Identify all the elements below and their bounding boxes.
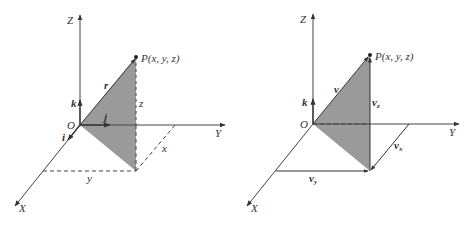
unit-k-label: k [71,97,77,109]
vx-label: vx [394,139,403,153]
origin-label: O [67,119,75,131]
z-axis-label: Z [67,14,74,26]
x-axis [247,124,313,206]
vector-v-label: v [334,83,339,95]
x-axis-label: X [250,202,259,214]
x-axis-label: X [18,202,27,214]
point-label: P(x, y, z) [374,50,414,63]
point-label: P(x, y, z) [140,52,180,65]
unit-k-label: k [302,96,308,108]
vy-label: vy [309,172,318,186]
vector-r-label: r [104,79,109,91]
z-axis-label: Z [300,13,307,25]
y-axis-label: Y [449,126,457,138]
z-component-label: z [138,97,144,109]
right-diagram: Z Y X O P(x, y, z) v k vz vx vy [247,13,459,214]
x-component-dashed [136,124,176,171]
unit-i-label: i [62,131,66,143]
vector-vx [371,124,409,170]
shaded-triangle [80,57,136,171]
left-diagram: Z Y X O P(x, y, z) r k j i z x y [15,14,225,214]
point-p [134,55,138,59]
vz-label: vz [372,96,380,110]
vector-diagrams: Z Y X O P(x, y, z) r k j i z x y Z Y X O… [0,0,470,225]
point-p [368,53,372,57]
y-axis-label: Y [215,127,223,139]
origin-label: O [300,118,308,130]
y-component-label: y [86,172,92,184]
x-component-label: x [161,142,167,154]
